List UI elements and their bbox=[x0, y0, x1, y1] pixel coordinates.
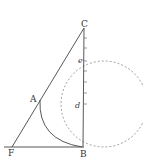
line-cb bbox=[83, 28, 84, 147]
label-a: A bbox=[29, 94, 37, 104]
label-d: d bbox=[75, 101, 80, 110]
label-f: F bbox=[8, 148, 14, 158]
dashed-circle bbox=[61, 61, 143, 147]
geometry-diagram: C e A d F B bbox=[0, 0, 143, 168]
label-e: e bbox=[78, 56, 83, 65]
label-c: C bbox=[81, 19, 88, 29]
line-cf bbox=[12, 28, 84, 147]
tick-marks bbox=[84, 38, 87, 104]
diagram-canvas: C e A d F B bbox=[0, 0, 143, 168]
label-b: B bbox=[80, 149, 87, 159]
